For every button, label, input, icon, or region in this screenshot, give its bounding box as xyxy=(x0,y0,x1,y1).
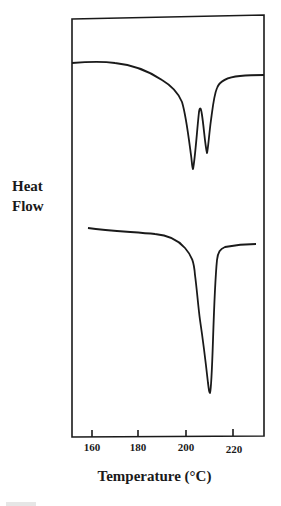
figure-caption-fragment xyxy=(6,502,36,506)
plot-frame xyxy=(72,15,264,437)
upper-trace xyxy=(72,62,264,169)
y-axis-label-line1: Heat xyxy=(12,176,43,196)
x-tick-label-180: 180 xyxy=(123,441,153,453)
dsc-chart xyxy=(0,0,281,506)
lower-trace xyxy=(88,228,256,393)
x-tick-label-220: 220 xyxy=(219,443,249,455)
x-axis-label: Temperature (°C) xyxy=(0,468,281,485)
y-axis-label-line2: Flow xyxy=(12,196,44,216)
x-tick-label-200: 200 xyxy=(171,441,201,453)
x-tick-label-160: 160 xyxy=(77,441,107,453)
